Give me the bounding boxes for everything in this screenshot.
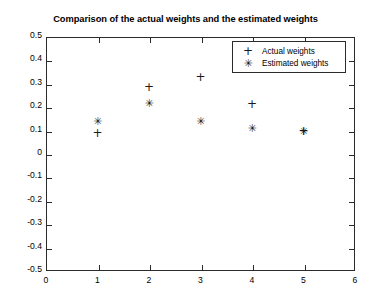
data-point-asterisk: ✳ — [247, 122, 256, 133]
legend-entry[interactable]: +Actual weights — [237, 45, 341, 57]
data-point-plus: + — [144, 82, 154, 93]
data-point-plus: + — [195, 71, 205, 82]
x-tick-mark-bottom — [150, 265, 151, 270]
y-tick-mark-right — [349, 202, 354, 203]
data-point-asterisk: ✳ — [299, 126, 308, 137]
y-tick-mark-right — [349, 85, 354, 86]
y-tick-mark-left — [47, 178, 52, 179]
data-point-plus: + — [247, 98, 257, 109]
x-tick-mark-bottom — [305, 265, 306, 270]
x-tick-mark-bottom — [253, 265, 254, 270]
data-point-plus: + — [92, 127, 102, 138]
y-tick-mark-right — [349, 155, 354, 156]
figure-canvas: Comparison of the actual weights and the… — [0, 0, 371, 299]
y-tick-mark-left — [47, 108, 52, 109]
data-point-asterisk: ✳ — [93, 116, 102, 127]
x-tick-label: 5 — [301, 275, 306, 285]
data-point-asterisk: ✳ — [196, 115, 205, 126]
x-tick-label: 3 — [198, 275, 203, 285]
x-tick-mark-bottom — [202, 265, 203, 270]
y-tick-mark-right — [349, 108, 354, 109]
y-tick-mark-right — [349, 225, 354, 226]
x-tick-mark-top — [202, 38, 203, 43]
y-tick-mark-right — [349, 132, 354, 133]
y-tick-mark-left — [47, 155, 52, 156]
chart-legend[interactable]: +Actual weights✳Estimated weights — [232, 41, 346, 73]
y-tick-mark-left — [47, 249, 52, 250]
x-tick-mark-bottom — [99, 265, 100, 270]
y-tick-mark-left — [47, 85, 52, 86]
y-tick-mark-left — [47, 132, 52, 133]
x-tick-label: 4 — [250, 275, 255, 285]
x-tick-label: 0 — [44, 275, 49, 285]
x-tick-label: 2 — [147, 275, 152, 285]
legend-entry-label: Actual weights — [259, 47, 315, 56]
y-tick-mark-left — [47, 202, 52, 203]
y-tick-mark-right — [349, 178, 354, 179]
x-tick-label: 1 — [95, 275, 100, 285]
y-tick-mark-right — [349, 249, 354, 250]
y-tick-mark-right — [349, 61, 354, 62]
legend-entry[interactable]: ✳Estimated weights — [237, 57, 341, 69]
x-tick-mark-top — [99, 38, 100, 43]
data-point-asterisk: ✳ — [144, 97, 153, 108]
x-tick-mark-top — [150, 38, 151, 43]
y-tick-mark-left — [47, 225, 52, 226]
legend-entry-label: Estimated weights — [259, 59, 328, 68]
asterisk-marker-icon: ✳ — [237, 58, 259, 69]
plus-marker-icon: + — [237, 46, 259, 57]
chart-title: Comparison of the actual weights and the… — [0, 14, 371, 24]
y-tick-mark-left — [47, 61, 52, 62]
x-tick-label: 6 — [353, 275, 358, 285]
